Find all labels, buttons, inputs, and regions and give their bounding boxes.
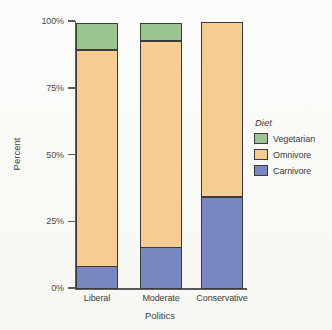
bar-stack <box>201 22 243 288</box>
legend-item-label: Vegetarian <box>273 134 315 144</box>
legend-title: Diet <box>254 117 315 128</box>
bar-stack <box>140 23 182 288</box>
legend-item-label: Carnivore <box>273 166 311 176</box>
x-axis-category-label: Conservative <box>196 293 247 303</box>
legend-item-label: Omnivore <box>273 150 311 160</box>
legend-swatch-icon <box>254 165 268 176</box>
legend-item-omnivore[interactable]: Omnivore <box>254 149 315 160</box>
bar-segment-vegetarian[interactable] <box>76 23 118 50</box>
x-axis-category-label: Liberal <box>84 293 110 303</box>
legend-swatch-icon <box>254 149 268 160</box>
bar-group[interactable]: Conservative <box>201 21 243 288</box>
bar-segment-omnivore[interactable] <box>76 50 118 267</box>
legend-item-carnivore[interactable]: Carnivore <box>254 165 315 176</box>
legend-items: VegetarianOmnivoreCarnivore <box>254 133 315 176</box>
bar-segment-omnivore[interactable] <box>140 41 182 248</box>
x-axis-category-label: Moderate <box>142 293 179 303</box>
bar-segment-omnivore[interactable] <box>201 22 243 197</box>
bar-stack <box>76 23 118 288</box>
bar-segment-carnivore[interactable] <box>76 266 118 289</box>
bar-segment-vegetarian[interactable] <box>140 23 182 41</box>
bar-group[interactable]: Liberal <box>76 21 118 288</box>
stacked-bar-chart: 100%75%50%25%0% Percent Politics Liberal… <box>0 0 332 330</box>
bar-group[interactable]: Moderate <box>140 21 182 288</box>
bar-segment-carnivore[interactable] <box>140 247 182 289</box>
bar-segment-carnivore[interactable] <box>201 197 243 289</box>
legend-swatch-icon <box>254 133 268 144</box>
legend: Diet VegetarianOmnivoreCarnivore <box>254 117 315 181</box>
legend-item-vegetarian[interactable]: Vegetarian <box>254 133 315 144</box>
